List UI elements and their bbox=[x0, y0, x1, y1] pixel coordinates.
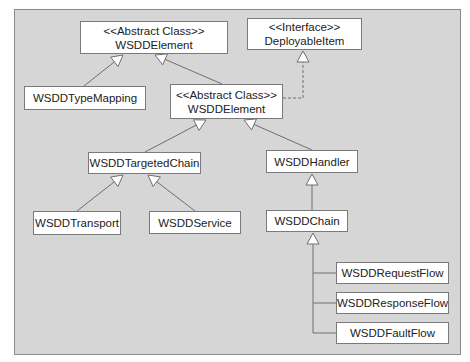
edge-transport-to-targetedchain-arrowhead bbox=[111, 175, 123, 187]
node-root-abstract-element: <<Abstract Class>> WSDDElement bbox=[80, 21, 228, 54]
node-name: WSDDTargetedChain bbox=[90, 156, 200, 170]
node-name: WSDDTypeMapping bbox=[33, 91, 137, 105]
edge-typemapping-to-element-line bbox=[84, 62, 114, 86]
node-stereotype: <<Abstract Class>> bbox=[104, 24, 205, 38]
node-name: WSDDRequestFlow bbox=[341, 266, 443, 280]
node-name: WSDDHandler bbox=[274, 155, 349, 169]
node-type-mapping: WSDDTypeMapping bbox=[24, 86, 146, 110]
edge-service-to-targetedchain-arrowhead bbox=[148, 175, 160, 186]
node-targeted-chain: WSDDTargetedChain bbox=[88, 152, 201, 174]
node-deployable-abstract-element: <<Abstract Class>> WSDDElement bbox=[170, 84, 283, 119]
node-name: DeployableItem bbox=[265, 34, 345, 48]
node-name: WSDDResponseFlow bbox=[337, 296, 448, 310]
node-handler: WSDDHandler bbox=[266, 150, 358, 173]
node-service: WSDDService bbox=[149, 211, 241, 234]
edge-targetedchain-to-element-line bbox=[145, 125, 196, 152]
node-name: WSDDTransport bbox=[35, 216, 119, 230]
edge-realization-arrowhead bbox=[297, 51, 309, 62]
node-name: WSDDFaultFlow bbox=[350, 326, 435, 340]
edge-typemapping-to-element-arrowhead bbox=[111, 55, 123, 67]
edge-handler-to-element-line bbox=[254, 124, 312, 150]
node-stereotype: <<Abstract Class>> bbox=[176, 88, 277, 102]
edge-chain-to-handler-arrowhead bbox=[306, 174, 318, 185]
edge-service-to-targetedchain-line bbox=[157, 182, 195, 211]
edge-transport-to-targetedchain-line bbox=[77, 182, 114, 211]
edge-deploy-element-to-element-line bbox=[165, 59, 222, 84]
node-response-flow: WSDDResponseFlow bbox=[336, 292, 449, 314]
node-name: WSDDElement bbox=[115, 38, 192, 52]
node-stereotype: <<Interface>> bbox=[269, 20, 341, 34]
node-name: WSDDElement bbox=[188, 102, 265, 116]
node-chain: WSDDChain bbox=[266, 210, 348, 232]
edge-flows-to-chain-arrowhead bbox=[307, 233, 319, 244]
node-name: WSDDService bbox=[158, 216, 231, 230]
node-transport: WSDDTransport bbox=[33, 211, 121, 235]
node-request-flow: WSDDRequestFlow bbox=[336, 262, 449, 284]
node-deployable-item-interface: <<Interface>> DeployableItem bbox=[247, 18, 362, 50]
node-name: WSDDChain bbox=[274, 214, 339, 228]
node-fault-flow: WSDDFaultFlow bbox=[336, 322, 449, 344]
